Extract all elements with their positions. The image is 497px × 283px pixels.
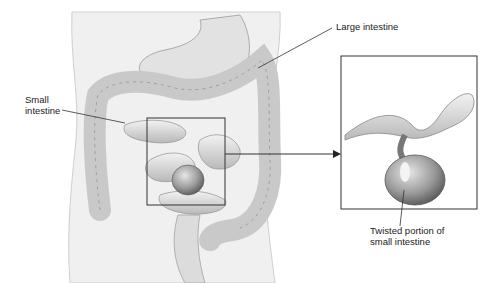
arrow-head: [333, 150, 341, 158]
twisted-loop-small: [172, 165, 204, 195]
label-twisted-portion: Twisted portion of small intestine: [370, 225, 444, 247]
twisted-loop-enlarged: [385, 155, 445, 205]
label-large-intestine: Large intestine: [336, 21, 398, 32]
label-small-intestine: Small intestine: [25, 94, 60, 116]
